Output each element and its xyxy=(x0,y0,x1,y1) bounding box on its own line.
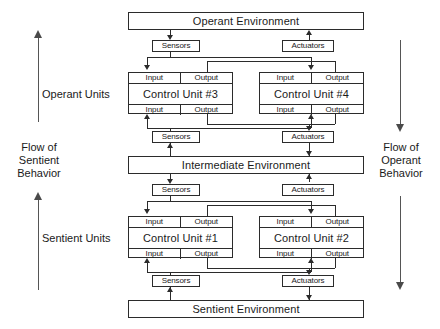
flow-arrowhead-sentient-lower xyxy=(34,192,42,200)
flow-left-line3: Behavior xyxy=(0,167,78,180)
arrow-up-cu2-bottom-input xyxy=(308,258,314,263)
connector-sensors-up-sentient xyxy=(170,272,171,275)
lower-cross-right-leg-sentient xyxy=(335,258,336,268)
feedback-bus-sentient xyxy=(147,272,311,273)
flow-left-line2: Sentient xyxy=(0,154,78,167)
flow-right-line3: Behavior xyxy=(364,167,438,180)
sensors-box-sentient-top: Sensors xyxy=(152,184,200,196)
arrow-up-cu1-bottom-input xyxy=(144,258,150,263)
flow-line-sentient-upper xyxy=(38,38,39,122)
sensors-label: Sensors xyxy=(162,277,191,285)
upper-cross-left-leg-sentient xyxy=(207,205,208,216)
arrow-down-cu4-to-actuators xyxy=(306,126,312,131)
cu1-top-output: Output xyxy=(181,217,233,227)
cu1-top-ports: Input Output xyxy=(129,217,232,228)
upper-cross-right-leg-sentient xyxy=(335,205,336,216)
feedback-bus-operant xyxy=(147,128,311,129)
sensors-box-operant-top: Sensors xyxy=(152,40,200,52)
arrow-up-cu4-bottom-input xyxy=(308,114,314,119)
control-unit-3-box[interactable]: Input Output Control Unit #3 Input Outpu… xyxy=(128,72,233,114)
cu3-top-ports: Input Output xyxy=(129,73,232,84)
actuators-label: Actuators xyxy=(292,277,325,285)
upper-cross-left-leg-operant xyxy=(207,61,208,72)
sentient-environment-label: Sentient Environment xyxy=(192,304,299,315)
control-unit-1-label: Control Unit #1 xyxy=(129,228,232,248)
arrow-down-sensors1-cu4-input xyxy=(308,65,314,70)
cu4-top-ports: Input Output xyxy=(260,73,363,84)
intermediate-environment-box: Intermediate Environment xyxy=(128,156,364,174)
control-unit-4-label: Control Unit #4 xyxy=(260,84,363,104)
actuators-box-sentient-top: Actuators xyxy=(282,184,334,196)
flow-arrowhead-sentient-upper xyxy=(34,30,42,38)
sensors-label: Sensors xyxy=(162,186,191,194)
cu4-bottom-input: Input xyxy=(260,105,312,115)
feedback-leg-cu1-sentient xyxy=(147,263,148,272)
cu2-bottom-output: Output xyxy=(312,249,364,259)
actuators-label: Actuators xyxy=(292,133,325,141)
sensors-label: Sensors xyxy=(162,42,191,50)
sensors2-bus xyxy=(147,201,311,202)
group-label-sentient-units: Sentient Units xyxy=(42,232,110,244)
cu2-top-ports: Input Output xyxy=(260,217,363,228)
arrow-up-sentientenv-sensors xyxy=(167,287,173,292)
sensors1-bus xyxy=(147,57,311,58)
cu3-top-input: Input xyxy=(129,73,181,83)
architecture-diagram: Operant Environment Sensors Actuators In… xyxy=(0,0,440,329)
flow-line-operant-upper xyxy=(400,40,401,124)
cu2-bottom-input: Input xyxy=(260,249,312,259)
actuators-box-operant-bottom: Actuators xyxy=(282,131,334,143)
flow-line-sentient-lower xyxy=(38,200,39,290)
cu4-top-input: Input xyxy=(260,73,312,83)
control-unit-1-box[interactable]: Input Output Control Unit #1 Input Outpu… xyxy=(128,216,233,258)
arrow-down-sensors2-cu1-input xyxy=(144,209,150,214)
upper-cross-bus-operant xyxy=(207,61,335,62)
actuators-box-sentient-bottom: Actuators xyxy=(282,275,334,287)
flow-arrowhead-operant-upper xyxy=(396,124,404,132)
operant-environment-label: Operant Environment xyxy=(193,16,299,27)
cu2-top-input: Input xyxy=(260,217,312,227)
actuators-label: Actuators xyxy=(292,186,325,194)
sensors-box-operant-bottom: Sensors xyxy=(152,131,200,143)
flow-arrowhead-operant-lower xyxy=(396,282,404,290)
feedback-leg-cu3-operant xyxy=(147,119,148,128)
cu4-top-output: Output xyxy=(312,73,364,83)
arrow-up-cu3-bottom-input xyxy=(144,114,150,119)
control-unit-4-box[interactable]: Input Output Control Unit #4 Input Outpu… xyxy=(259,72,364,114)
flow-of-sentient-behavior-label: Flow of Sentient Behavior xyxy=(0,141,78,180)
sensors-label: Sensors xyxy=(162,133,191,141)
group-label-operant-units: Operant Units xyxy=(42,88,110,100)
flow-line-operant-lower xyxy=(400,196,401,282)
control-unit-2-label: Control Unit #2 xyxy=(260,228,363,248)
cu2-top-output: Output xyxy=(312,217,364,227)
lower-cross-right-leg-operant xyxy=(335,114,336,124)
cu3-top-output: Output xyxy=(181,73,233,83)
lower-cross-bus-operant xyxy=(207,124,335,125)
flow-right-line1: Flow of xyxy=(364,141,438,154)
actuators-label: Actuators xyxy=(292,42,325,50)
arrow-up-intermediate-sensors xyxy=(167,143,173,148)
sentient-environment-box: Sentient Environment xyxy=(128,300,364,318)
lower-cross-bus-sentient xyxy=(207,268,335,269)
upper-cross-right-leg-operant xyxy=(335,61,336,72)
upper-cross-bus-sentient xyxy=(207,205,335,206)
connector-sensors-up-operant xyxy=(170,128,171,131)
cu3-bottom-input: Input xyxy=(129,105,181,115)
actuators-box-operant-top: Actuators xyxy=(282,40,334,52)
control-unit-3-label: Control Unit #3 xyxy=(129,84,232,104)
arrow-down-sensors1-cu3-input xyxy=(144,65,150,70)
cu4-bottom-output: Output xyxy=(312,105,364,115)
connector-actuators1-to-env1 xyxy=(309,35,310,40)
arrow-down-sensors2-cu2-input xyxy=(308,209,314,214)
cu1-bottom-input: Input xyxy=(129,249,181,259)
arrow-up-actuators1-env1 xyxy=(306,30,312,35)
flow-right-line2: Operant xyxy=(364,154,438,167)
lower-cross-left-leg-sentient xyxy=(207,258,208,268)
cu1-top-input: Input xyxy=(129,217,181,227)
flow-of-operant-behavior-label: Flow of Operant Behavior xyxy=(364,141,438,180)
sensors-box-sentient-bottom: Sensors xyxy=(152,275,200,287)
arrow-down-cu2-to-actuators xyxy=(306,270,312,275)
intermediate-environment-label: Intermediate Environment xyxy=(182,160,310,171)
lower-cross-left-leg-operant xyxy=(207,114,208,124)
control-unit-2-box[interactable]: Input Output Control Unit #2 Input Outpu… xyxy=(259,216,364,258)
flow-left-line1: Flow of xyxy=(0,141,78,154)
